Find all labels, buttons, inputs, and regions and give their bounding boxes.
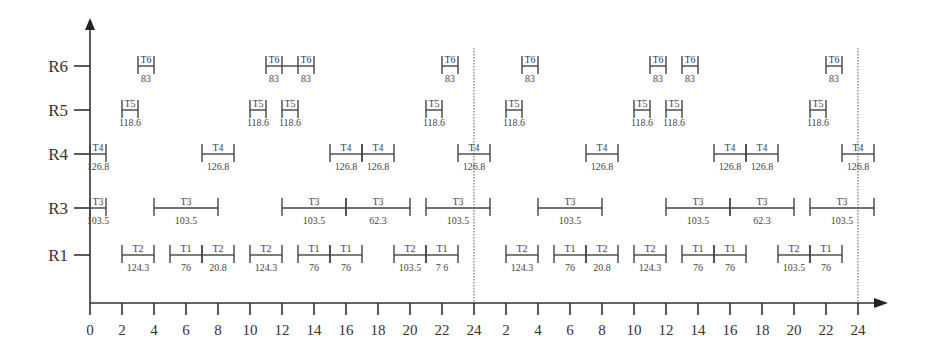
task-value: 62.3	[369, 215, 387, 226]
task-bar-t4: T4126.8	[746, 142, 778, 172]
task-value: 124.3	[511, 262, 534, 273]
task-value: 20.8	[209, 262, 227, 273]
row-label-r4: R4	[48, 145, 68, 164]
x-tick-label: 20	[787, 322, 802, 338]
task-label: T6	[652, 54, 663, 65]
task-bar-t6: T683	[298, 54, 314, 84]
task-value: 126.8	[719, 161, 742, 172]
task-value: 83	[141, 73, 151, 84]
task-value: 126.8	[367, 161, 390, 172]
x-tick-label: 20	[403, 322, 418, 338]
y-axis-arrow-icon	[85, 18, 95, 30]
task-label: T1	[564, 243, 575, 254]
task-value: 126.8	[751, 161, 774, 172]
x-tick-label: 18	[371, 322, 386, 338]
task-value: 118.6	[503, 117, 525, 128]
task-label: T6	[828, 54, 839, 65]
task-bar-t5: T5118.6	[663, 98, 685, 128]
task-label: T5	[124, 98, 135, 109]
task-bar-t5: T5118.6	[279, 98, 301, 128]
task-label: T3	[836, 196, 847, 207]
axes: 0246810121416182022242468101214161820222…	[85, 18, 888, 338]
task-bar-t6: T683	[522, 54, 538, 84]
task-label: T4	[372, 142, 383, 153]
task-value: 126.8	[207, 161, 230, 172]
task-label: T6	[444, 54, 455, 65]
row-label-r6: R6	[48, 57, 68, 76]
task-bar-t2: T2103.5	[394, 243, 426, 273]
task-bar-t2: T2124.3	[250, 243, 282, 273]
task-value: 83	[685, 73, 695, 84]
task-bar-t3: T3103.5	[154, 196, 218, 226]
task-value: 7 6	[436, 262, 449, 273]
task-label: T2	[516, 243, 527, 254]
task-bar-t1: T176	[554, 243, 586, 273]
task-value: 103.5	[783, 262, 806, 273]
task-label: T3	[92, 196, 103, 207]
task-value: 126.8	[463, 161, 486, 172]
task-value: 118.6	[423, 117, 445, 128]
task-value: 118.6	[119, 117, 141, 128]
task-value: 83	[653, 73, 663, 84]
task-label: T3	[308, 196, 319, 207]
task-value: 76	[821, 262, 831, 273]
task-bar-t1: T17 6	[426, 243, 458, 273]
x-tick-label: 6	[182, 322, 190, 338]
task-label: T5	[252, 98, 263, 109]
x-tick-label: 2	[118, 322, 126, 338]
task-value: 118.6	[663, 117, 685, 128]
task-value: 118.6	[279, 117, 301, 128]
task-bar-t6: T683	[266, 54, 282, 84]
task-bar-t6: T683	[682, 54, 698, 84]
task-bar-t3: T3103.5	[426, 196, 490, 226]
task-bar-t5: T5118.6	[807, 98, 829, 128]
task-label: T1	[692, 243, 703, 254]
task-label: T1	[820, 243, 831, 254]
task-bar-t3: T3103.5	[810, 196, 874, 226]
row-labels: R6R5R4R3R1	[48, 57, 90, 265]
task-value: 103.5	[303, 215, 326, 226]
x-tick-label: 22	[435, 322, 450, 338]
task-bar-t3: T3103.5	[87, 196, 110, 226]
x-tick-label: 14	[307, 322, 323, 338]
task-label: T5	[428, 98, 439, 109]
row-label-r1: R1	[48, 246, 68, 265]
x-tick-label: 14	[691, 322, 707, 338]
task-bar-t5: T5118.6	[631, 98, 653, 128]
task-bars: T683T683T683T683T683T683T683T683T5118.6T…	[87, 54, 874, 273]
task-label: T3	[180, 196, 191, 207]
task-value: 20.8	[593, 262, 611, 273]
task-value: 118.6	[247, 117, 269, 128]
task-label: T4	[756, 142, 767, 153]
task-value: 103.5	[175, 215, 198, 226]
task-value: 103.5	[559, 215, 582, 226]
task-label: T4	[596, 142, 607, 153]
task-value: 103.5	[831, 215, 854, 226]
task-label: T6	[684, 54, 695, 65]
x-tick-label: 10	[243, 322, 258, 338]
task-label: T5	[812, 98, 823, 109]
task-label: T3	[564, 196, 575, 207]
task-bar-t4: T4126.8	[87, 142, 110, 172]
task-bar-t4: T4126.8	[586, 142, 618, 172]
task-bar-t5: T5118.6	[247, 98, 269, 128]
task-bar-t1: T176	[810, 243, 842, 273]
task-value: 76	[693, 262, 703, 273]
task-label: T1	[436, 243, 447, 254]
x-tick-label: 4	[534, 322, 542, 338]
task-bar-t5: T5118.6	[503, 98, 525, 128]
task-label: T3	[756, 196, 767, 207]
x-tick-label: 18	[755, 322, 770, 338]
task-label: T6	[300, 54, 311, 65]
task-value: 76	[309, 262, 319, 273]
task-value: 103.5	[87, 215, 110, 226]
task-bar-t6: T683	[826, 54, 842, 84]
task-label: T6	[268, 54, 279, 65]
task-value: 118.6	[807, 117, 829, 128]
task-label: T6	[140, 54, 151, 65]
x-axis-arrow-icon	[874, 298, 888, 308]
task-value: 76	[725, 262, 735, 273]
task-value: 83	[525, 73, 535, 84]
task-label: T2	[260, 243, 271, 254]
task-bar-t3: T3103.5	[538, 196, 602, 226]
